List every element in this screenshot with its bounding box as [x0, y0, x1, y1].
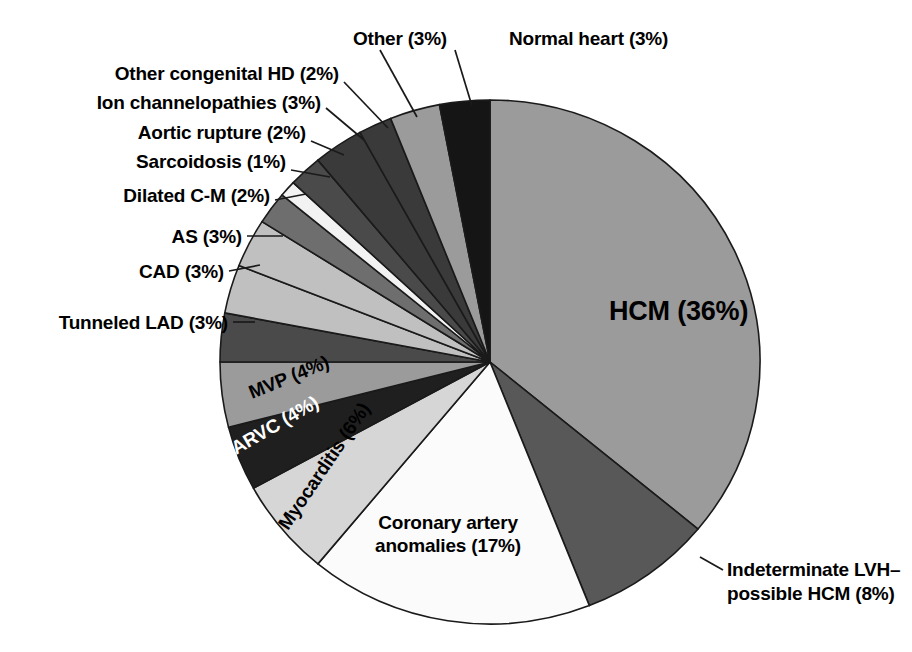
label-other: Other (3%) — [353, 28, 447, 49]
leader-line-other-congenital-hd — [344, 82, 388, 128]
label-ion-channelopathies: Ion channelopathies (3%) — [97, 92, 321, 113]
label-indeterminate-line1: Indeterminate LVH– — [727, 559, 900, 580]
label-dilated-cm: Dilated C-M (2%) — [123, 185, 270, 206]
leader-line-normal-heart — [455, 50, 472, 106]
label-sarcoidosis: Sarcoidosis (1%) — [136, 151, 286, 172]
label-other-congenital-hd: Other congenital HD (2%) — [115, 63, 339, 84]
label-coronary-anomalies-line2: anomalies (17%) — [375, 535, 521, 556]
leader-line-ion-channelopathies — [326, 108, 364, 140]
label-as: AS (3%) — [172, 226, 242, 247]
label-hcm: HCM (36%) — [609, 296, 748, 326]
pie-chart-canvas: Other (3%) Normal heart (3%) Other conge… — [0, 0, 912, 652]
label-normal-heart: Normal heart (3%) — [509, 28, 668, 49]
label-tunneled-lad: Tunneled LAD (3%) — [59, 312, 228, 333]
leader-line-other — [380, 50, 417, 117]
pie-chart-figure: Other (3%) Normal heart (3%) Other conge… — [0, 0, 912, 652]
leader-line-indeterminate — [700, 557, 723, 570]
label-indeterminate-line2: possible HCM (8%) — [727, 583, 895, 604]
label-cad: CAD (3%) — [139, 261, 224, 282]
label-coronary-anomalies-line1: Coronary artery — [378, 512, 518, 533]
label-aortic-rupture: Aortic rupture (2%) — [138, 122, 306, 143]
